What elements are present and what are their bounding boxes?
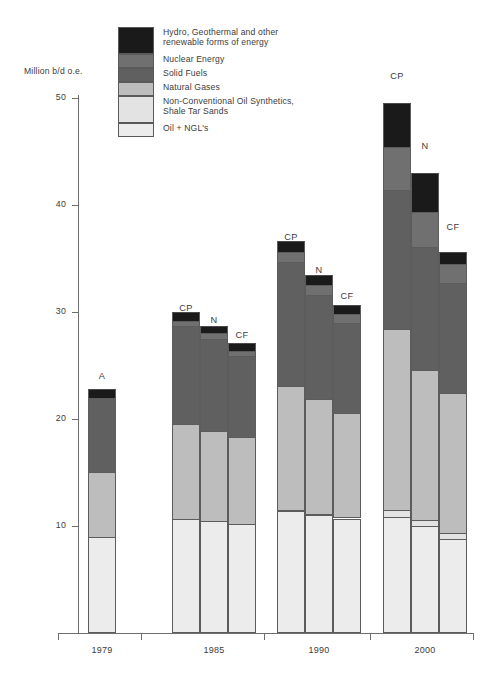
bar-scenario-label: CF — [222, 330, 262, 340]
bar-scenario-label: CP — [377, 71, 417, 81]
x-axis-label: 1979 — [72, 645, 132, 655]
bar-segment-hydro-renewables — [411, 173, 439, 213]
bar-segment-nuclear — [383, 147, 411, 190]
bar-1985-n — [200, 326, 228, 633]
bar-segment-oil-ngl — [439, 539, 467, 633]
bar-segment-non-conventional — [305, 514, 333, 515]
bar-segment-natural-gases — [200, 431, 228, 521]
bar-segment-hydro-renewables — [333, 305, 361, 315]
bar-scenario-label: CF — [327, 291, 367, 301]
bar-segment-non-conventional — [411, 520, 439, 526]
bar-1990-cp — [277, 241, 305, 633]
bar-1979-a — [88, 389, 116, 633]
bar-segment-nuclear — [333, 314, 361, 323]
y-tick-mark — [72, 526, 78, 527]
y-tick-mark — [72, 98, 78, 99]
bar-segment-hydro-renewables — [228, 343, 256, 350]
bar-segment-hydro-renewables — [305, 275, 333, 286]
y-tick-label: 20 — [38, 413, 66, 423]
bar-segment-solid-fuels — [228, 356, 256, 437]
bar-segment-natural-gases — [383, 329, 411, 510]
y-tick-label: 50 — [38, 92, 66, 102]
bar-segment-hydro-renewables — [277, 241, 305, 252]
bar-segment-solid-fuels — [88, 398, 116, 473]
y-tick-mark — [72, 205, 78, 206]
y-tick-label: 40 — [38, 199, 66, 209]
y-tick-label: 10 — [38, 520, 66, 530]
x-axis-tick — [141, 633, 142, 640]
bar-segment-oil-ngl — [88, 537, 116, 633]
bar-segment-solid-fuels — [439, 283, 467, 393]
bar-segment-natural-gases — [277, 386, 305, 510]
bar-segment-oil-ngl — [333, 519, 361, 633]
bar-segment-solid-fuels — [305, 295, 333, 399]
bar-scenario-label: CP — [166, 303, 206, 313]
bar-1985-cf — [228, 343, 256, 633]
bar-segment-oil-ngl — [305, 515, 333, 633]
bar-segment-hydro-renewables — [88, 389, 116, 398]
bar-1990-cf — [333, 305, 361, 633]
bar-segment-natural-gases — [439, 393, 467, 533]
x-axis-tick — [58, 633, 59, 640]
bar-segment-solid-fuels — [277, 262, 305, 386]
bar-2000-n — [411, 173, 439, 633]
bar-segment-natural-gases — [228, 437, 256, 524]
bar-scenario-label: CF — [433, 222, 473, 232]
plot-area: 10203040501979198519902000ACPNCFCPNCFCPN… — [0, 0, 496, 682]
y-tick-mark — [72, 419, 78, 420]
bar-scenario-label: N — [299, 265, 339, 275]
x-axis-label: 1990 — [289, 645, 349, 655]
bar-segment-non-conventional — [383, 510, 411, 517]
bar-segment-natural-gases — [411, 370, 439, 520]
bar-segment-natural-gases — [88, 472, 116, 536]
bar-segment-nuclear — [439, 264, 467, 283]
x-axis-tick — [473, 633, 474, 640]
bar-segment-solid-fuels — [333, 323, 361, 413]
bar-segment-nuclear — [277, 252, 305, 262]
bar-segment-non-conventional — [277, 510, 305, 511]
bar-segment-solid-fuels — [172, 326, 200, 424]
bar-scenario-label: N — [194, 315, 234, 325]
bar-1990-n — [305, 275, 333, 633]
bar-segment-oil-ngl — [228, 524, 256, 633]
bar-segment-natural-gases — [333, 413, 361, 518]
x-axis-label: 2000 — [395, 645, 455, 655]
bar-segment-oil-ngl — [172, 519, 200, 633]
bar-segment-solid-fuels — [200, 339, 228, 431]
bar-segment-oil-ngl — [383, 517, 411, 633]
bar-2000-cf — [439, 252, 467, 633]
bar-scenario-label: A — [82, 371, 122, 381]
bar-segment-hydro-renewables — [439, 252, 467, 264]
bar-2000-cp — [383, 103, 411, 633]
bar-segment-natural-gases — [305, 399, 333, 515]
bar-segment-natural-gases — [172, 424, 200, 518]
bar-scenario-label: N — [405, 141, 445, 151]
bar-segment-oil-ngl — [200, 521, 228, 633]
bar-segment-non-conventional — [439, 533, 467, 538]
bar-segment-solid-fuels — [411, 247, 439, 370]
x-axis-label: 1985 — [184, 645, 244, 655]
bar-segment-solid-fuels — [383, 190, 411, 329]
bar-segment-oil-ngl — [277, 511, 305, 633]
bar-segment-oil-ngl — [411, 526, 439, 633]
energy-stacked-bar-chart: Hydro, Geothermal and other renewable fo… — [0, 0, 496, 682]
bar-scenario-label: CP — [271, 232, 311, 242]
bar-segment-non-conventional — [333, 517, 361, 518]
x-axis-tick — [370, 633, 371, 640]
bar-segment-nuclear — [228, 351, 256, 356]
x-axis-tick — [264, 633, 265, 640]
y-tick-mark — [72, 312, 78, 313]
bar-1985-cp — [172, 312, 200, 633]
y-tick-label: 30 — [38, 306, 66, 316]
